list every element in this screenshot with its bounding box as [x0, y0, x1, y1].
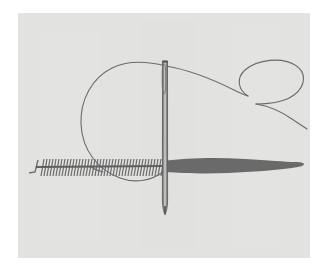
needle-and-thread-illustration: Threaded sewing needle piercing stitched… — [0, 0, 329, 275]
sewing-needle — [162, 61, 168, 215]
zipper-spine — [36, 166, 167, 167]
illustration-frame: Threaded sewing needle piercing stitched… — [0, 0, 329, 275]
